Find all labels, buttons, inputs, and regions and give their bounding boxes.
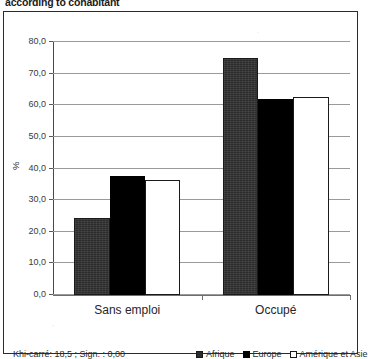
y-axis-tick [49, 231, 53, 232]
y-axis-tick [49, 199, 53, 200]
y-axis-tick [49, 41, 53, 42]
chi-square-note: Khi-carré: 18,5 ; Sign. : 0,00 [13, 349, 125, 359]
bar-occup--afrique [223, 58, 258, 295]
legend-swatch-icon [290, 351, 297, 358]
legend-item-afrique: Afrique [196, 349, 235, 359]
y-axis-tick-label: 80,0 [28, 36, 46, 46]
y-axis-tick-label: 0,0 [33, 289, 46, 299]
y-gridline: 80,0 [53, 41, 350, 42]
legend-item-label: Amérique et Asie [300, 349, 368, 359]
bar-sans-emploi-afrique [74, 218, 109, 295]
chart-figure-frame: % 0,010,020,030,040,050,060,070,080,0 Kh… [3, 11, 358, 354]
x-axis-tick [202, 295, 203, 300]
y-axis-tick-label: 20,0 [28, 226, 46, 236]
legend-swatch-icon [196, 351, 203, 358]
bar-occup--europe [258, 99, 293, 295]
y-axis-tick-label: 30,0 [28, 194, 46, 204]
y-axis-tick-label: 40,0 [28, 163, 46, 173]
x-axis-category-label: Occupé [202, 303, 351, 317]
x-axis-tick [350, 295, 351, 300]
y-gridline: 70,0 [53, 73, 350, 74]
bar-occup--am-rique-et-asie [293, 97, 328, 295]
x-axis-category-label: Sans emploi [53, 303, 202, 317]
y-axis-tick-label: 10,0 [28, 257, 46, 267]
bar-sans-emploi-europe [110, 176, 145, 295]
y-axis-tick [49, 104, 53, 105]
y-axis-tick-label: 70,0 [28, 68, 46, 78]
legend-item-label: Afrique [206, 349, 235, 359]
plot-wrapper: % 0,010,020,030,040,050,060,070,080,0 Kh… [4, 12, 357, 353]
legend-swatch-icon [243, 351, 250, 358]
y-axis-tick [49, 262, 53, 263]
legend-item-label: Europe [253, 349, 282, 359]
y-axis-tick [49, 73, 53, 74]
y-axis-tick-label: 60,0 [28, 99, 46, 109]
legend-item-europe: Europe [243, 349, 282, 359]
y-axis-tick-label: 50,0 [28, 131, 46, 141]
y-axis-tick [49, 294, 53, 295]
chart-legend: AfriqueEuropeAmérique et Asie [196, 349, 368, 359]
y-axis-title: % [10, 162, 21, 170]
plot-area: 0,010,020,030,040,050,060,070,080,0 [53, 42, 350, 295]
page-title: according to cohabitant [5, 0, 255, 8]
y-axis-tick [49, 136, 53, 137]
y-axis-tick [49, 168, 53, 169]
bar-sans-emploi-am-rique-et-asie [145, 180, 180, 295]
legend-item-am-rique-et-asie: Amérique et Asie [290, 349, 368, 359]
